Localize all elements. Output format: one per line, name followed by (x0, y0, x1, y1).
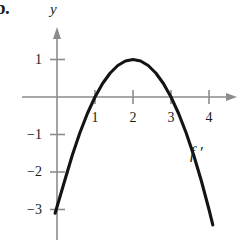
x-tick-label-2: 2 (123, 111, 143, 125)
graph-figure: b. y 1 2 3 4 1 −1 −2 −3 (0, 0, 239, 247)
curve-annotation-label: f ′ (190, 144, 203, 161)
x-tick-label-1: 1 (85, 111, 105, 125)
y-tick-label-1: 1 (14, 53, 42, 67)
y-axis-up-arrow-icon (53, 27, 61, 39)
x-axis-right-arrow-icon (226, 93, 237, 101)
x-tick-label-3: 3 (161, 111, 181, 125)
x-tick-label-4: 4 (199, 111, 219, 125)
y-tick-label-neg3: −3 (14, 203, 42, 217)
y-tick-label-neg2: −2 (14, 165, 42, 179)
y-tick-label-neg1: −1 (14, 128, 42, 142)
